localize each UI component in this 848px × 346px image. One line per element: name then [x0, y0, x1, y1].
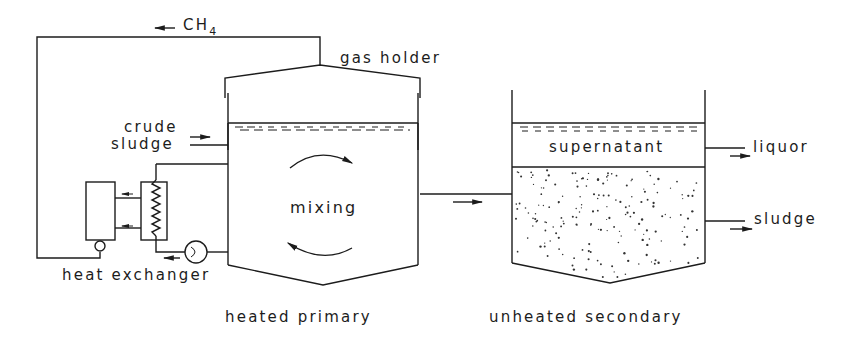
sludge-outlet	[705, 221, 752, 229]
mixing-arrow-icon	[288, 243, 352, 255]
liquor-label: liquor	[753, 140, 809, 155]
crude-label: crude	[124, 120, 178, 135]
liquor-outlet	[705, 148, 750, 156]
supernatant-label: supernatant	[549, 140, 664, 155]
secondary-digester	[512, 90, 705, 283]
ch4-label: CH4	[183, 18, 218, 33]
transfer-pipe	[420, 194, 512, 202]
pump-icon	[185, 241, 207, 263]
gas-holder-label: gas holder	[340, 51, 441, 66]
sludge-stipple	[515, 169, 699, 278]
ch4-gas-line	[37, 28, 320, 258]
primary-digester	[225, 65, 420, 285]
liquid-surface	[235, 127, 410, 130]
valve-icon	[95, 241, 105, 251]
sludge-out-label: sludge	[754, 212, 817, 227]
ch4-subscript: 4	[209, 25, 218, 38]
heated-primary-label: heated primary	[225, 310, 372, 325]
heat-exchanger-label: heat exchanger	[62, 268, 210, 283]
sludge-in-label: sludge	[111, 137, 174, 152]
unheated-secondary-label: unheated secondary	[489, 310, 683, 325]
mixing-label: mixing	[290, 200, 357, 216]
mixing-arrow-icon	[290, 155, 352, 168]
crude-sludge-inlet	[190, 137, 228, 145]
ch4-text: CH	[183, 16, 209, 34]
heat-exchanger	[86, 164, 228, 263]
